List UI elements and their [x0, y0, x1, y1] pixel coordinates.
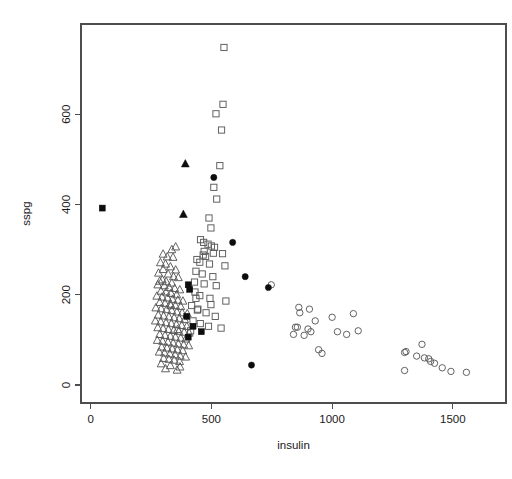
- series-open-triangle: [151, 243, 193, 374]
- data-point: [157, 359, 165, 366]
- data-point: [431, 360, 437, 366]
- data-point: [172, 243, 180, 250]
- data-point: [248, 362, 254, 368]
- data-point: [217, 163, 223, 169]
- x-axis-title: insulin: [277, 439, 310, 451]
- data-point: [265, 284, 271, 290]
- data-point: [421, 355, 427, 361]
- y-tick-label: 600: [60, 105, 72, 124]
- data-point: [401, 367, 407, 373]
- data-point: [463, 369, 469, 375]
- data-point: [208, 225, 214, 231]
- data-point: [210, 274, 216, 280]
- series-open-circle: [268, 282, 470, 376]
- data-point: [448, 368, 454, 374]
- data-point: [290, 331, 296, 337]
- x-tick-label: 1500: [440, 413, 466, 425]
- y-tick-label: 400: [60, 195, 72, 214]
- data-point: [199, 271, 205, 277]
- data-point: [413, 353, 419, 359]
- data-point: [187, 286, 193, 292]
- data-point: [188, 302, 194, 308]
- data-point: [181, 160, 189, 167]
- x-tick-label: 1000: [319, 413, 345, 425]
- x-tick-label: 500: [202, 413, 221, 425]
- x-axis: 050010001500: [87, 403, 465, 425]
- x-tick-label: 0: [87, 413, 93, 425]
- data-point: [350, 310, 356, 316]
- data-point: [355, 328, 361, 334]
- scatter-plot-figure: 0500100015000200400600insulinsspg: [0, 0, 512, 479]
- data-point: [179, 210, 187, 217]
- data-point: [439, 365, 445, 371]
- data-point: [301, 332, 307, 338]
- data-point: [184, 313, 190, 319]
- data-point: [173, 366, 181, 373]
- series-filled-square: [99, 205, 204, 340]
- data-point: [211, 184, 217, 190]
- data-point: [197, 320, 203, 326]
- data-point: [334, 329, 340, 335]
- data-point: [221, 44, 227, 50]
- data-point: [306, 306, 312, 312]
- series-open-square: [188, 44, 229, 334]
- data-point: [242, 274, 248, 280]
- data-point: [213, 111, 219, 117]
- data-point: [203, 310, 209, 316]
- data-point: [201, 281, 207, 287]
- data-point: [220, 101, 226, 107]
- data-point: [214, 196, 220, 202]
- y-axis-title: sspg: [20, 201, 32, 225]
- data-point: [210, 250, 216, 256]
- data-point: [198, 329, 204, 335]
- data-point: [222, 263, 228, 269]
- data-point: [211, 174, 217, 180]
- data-point: [99, 205, 105, 211]
- data-point: [223, 298, 229, 304]
- y-tick-label: 200: [60, 285, 72, 304]
- data-point: [193, 268, 199, 274]
- y-tick-label: 0: [60, 382, 72, 388]
- data-point: [208, 302, 214, 308]
- data-point: [207, 295, 213, 301]
- data-point: [206, 215, 212, 221]
- data-point: [419, 341, 425, 347]
- series-filled-triangle: [179, 160, 189, 218]
- data-point: [205, 323, 211, 329]
- data-point: [191, 279, 197, 285]
- data-point: [212, 313, 218, 319]
- data-point: [159, 250, 167, 257]
- data-point: [164, 270, 172, 277]
- data-point: [329, 314, 335, 320]
- plot-frame: [81, 24, 506, 403]
- data-point: [213, 283, 219, 289]
- data-point: [185, 334, 191, 340]
- data-point: [343, 331, 349, 337]
- data-point: [190, 323, 196, 329]
- data-point: [230, 239, 236, 245]
- y-axis: 0200400600: [60, 105, 81, 389]
- data-point: [312, 318, 318, 324]
- data-point: [218, 325, 224, 331]
- series-filled-circle: [211, 174, 272, 368]
- data-point: [219, 251, 225, 257]
- plot-canvas: 0500100015000200400600insulinsspg: [0, 0, 512, 479]
- data-point: [169, 253, 177, 260]
- data-point: [206, 261, 212, 267]
- data-point: [218, 127, 224, 133]
